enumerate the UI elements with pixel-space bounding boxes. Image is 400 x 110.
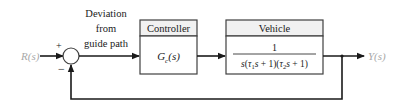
controller-block: Controller Gc(s) <box>140 20 197 74</box>
block-diagram: R(s) + − Deviation from guide path Contr… <box>0 0 400 110</box>
plus-sign: + <box>56 40 62 51</box>
controller-title: Controller <box>147 23 191 34</box>
vehicle-denominator: s(τ1s + 1)(τ2s + 1) <box>241 59 308 70</box>
error-label-line1: Deviation <box>85 8 127 19</box>
summing-junction <box>63 48 79 64</box>
minus-sign: − <box>58 62 65 76</box>
error-label-line2: from <box>96 23 116 34</box>
error-label-line3: guide path <box>84 38 129 49</box>
vehicle-title: Vehicle <box>259 23 291 34</box>
vehicle-block: Vehicle 1 s(τ1s + 1)(τ2s + 1) <box>226 20 323 74</box>
vehicle-numerator: 1 <box>272 42 277 53</box>
input-label: R(s) <box>20 50 40 63</box>
output-label: Y(s) <box>368 50 386 63</box>
